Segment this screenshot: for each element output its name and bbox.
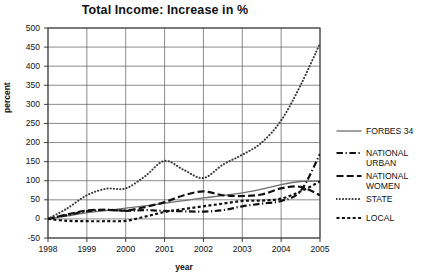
series-line-national-women (48, 186, 320, 218)
y-axis-tick-label: 150 (14, 157, 40, 166)
x-axis-tick-label: 1999 (67, 245, 107, 254)
x-axis-tick-label: 2005 (300, 245, 340, 254)
x-axis-tick-label: 2003 (222, 245, 262, 254)
y-axis-tick-label: 250 (14, 119, 40, 128)
legend-label: NATIONAL WOMEN (366, 171, 428, 192)
legend-label: STATE (366, 194, 428, 205)
legend-label: LOCAL (366, 213, 428, 224)
y-axis-tick-label: -50 (14, 234, 40, 243)
legend-label: FORBES 34 (366, 126, 428, 137)
legend-item-national-women[interactable]: NATIONAL WOMEN (336, 171, 428, 192)
plot-svg (0, 0, 330, 280)
series-group (48, 43, 320, 221)
series-line-state (48, 43, 320, 219)
chart-figure: Total Income: Increase in % percent year… (0, 0, 428, 280)
legend-spacer (336, 223, 428, 225)
y-axis-tick-label: 0 (14, 214, 40, 223)
y-axis-tick-label: 50 (14, 195, 40, 204)
x-axis-tick-label: 2001 (145, 245, 185, 254)
grid-lines (48, 28, 320, 238)
legend-item-forbes-34[interactable]: FORBES 34 (336, 126, 428, 137)
legend-item-state[interactable]: STATE (336, 194, 428, 205)
x-axis-tick-label: 1998 (28, 245, 68, 254)
dash-dot-line-swatch (336, 148, 362, 158)
x-axis-tick-label: 2002 (183, 245, 223, 254)
solid-line-swatch (336, 126, 362, 136)
legend-spacer (336, 205, 428, 213)
y-axis-tick-label: 300 (14, 100, 40, 109)
y-axis-tick-label: 350 (14, 81, 40, 90)
legend-label: NATIONAL URBAN (366, 148, 428, 169)
y-axis-tick-label: 100 (14, 176, 40, 185)
y-axis-tick-label: 450 (14, 43, 40, 52)
y-axis-tick-label: 200 (14, 138, 40, 147)
chart-legend: FORBES 34NATIONAL URBANNATIONAL WOMENSTA… (336, 126, 428, 225)
plot-frame (48, 28, 320, 238)
y-axis-tick-label: 400 (14, 62, 40, 71)
plot-area-wrapper: percent year 500450400350300250200150100… (0, 0, 330, 280)
legend-item-local[interactable]: LOCAL (336, 213, 428, 224)
dotted-line-swatch (336, 194, 362, 204)
legend-item-national-urban[interactable]: NATIONAL URBAN (336, 148, 428, 169)
y-axis-tick-label: 500 (14, 24, 40, 33)
dashed-line-swatch (336, 171, 362, 181)
short-dash-line-swatch (336, 213, 362, 223)
x-axis-tick-label: 2004 (261, 245, 301, 254)
legend-spacer (336, 137, 428, 148)
x-axis-tick-label: 2000 (106, 245, 146, 254)
